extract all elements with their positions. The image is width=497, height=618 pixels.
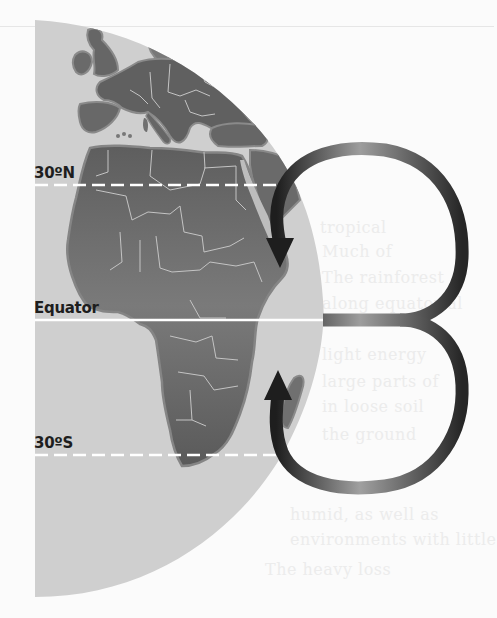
- label-30n: 30ºN: [34, 164, 75, 182]
- label-equator: Equator: [34, 299, 99, 317]
- label-30s: 30ºS: [34, 434, 73, 452]
